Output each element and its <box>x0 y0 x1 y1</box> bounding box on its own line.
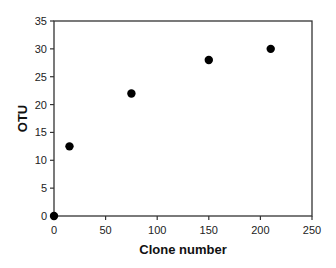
y-tick-label: 0 <box>41 210 47 222</box>
x-tick-label: 0 <box>51 224 57 236</box>
y-tick-label: 30 <box>35 43 47 55</box>
data-points <box>50 45 275 221</box>
x-axis-ticks: 050100150200250 <box>51 216 321 236</box>
y-tick-label: 15 <box>35 126 47 138</box>
x-tick-label: 200 <box>251 224 269 236</box>
y-tick-label: 35 <box>35 15 47 27</box>
x-axis-title: Clone number <box>139 242 226 257</box>
y-tick-label: 5 <box>41 182 47 194</box>
x-tick-label: 250 <box>303 224 321 236</box>
y-tick-label: 10 <box>35 154 47 166</box>
x-tick-label: 50 <box>99 224 111 236</box>
scatter-chart: 05101520253035 050100150200250 Clone num… <box>0 0 336 268</box>
data-point-marker <box>65 142 73 150</box>
y-axis-title: OTU <box>15 105 30 132</box>
y-tick-label: 25 <box>35 71 47 83</box>
x-tick-label: 150 <box>200 224 218 236</box>
y-axis-ticks: 05101520253035 <box>35 15 54 222</box>
data-point-marker <box>205 56 213 64</box>
y-tick-label: 20 <box>35 99 47 111</box>
data-point-marker <box>267 45 275 53</box>
data-point-marker <box>50 212 58 220</box>
data-point-marker <box>127 89 135 97</box>
x-tick-label: 100 <box>148 224 166 236</box>
